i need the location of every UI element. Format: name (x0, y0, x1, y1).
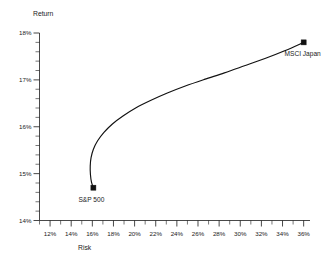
x-axis-tick-labels: 12%14%16%18%20%22%24%26%28%30%32%34%36% (44, 230, 310, 237)
data-point-marker (91, 185, 96, 190)
x-axis: 12%14%16%18%20%22%24%26%28%30%32%34%36% (40, 221, 311, 238)
x-tick-label: 12% (44, 230, 57, 237)
x-axis-title: Risk (78, 244, 92, 251)
efficient-frontier-chart: 14%15%16%17%18% 12%14%16%18%20%22%24%26%… (0, 0, 336, 264)
data-point-label: MSCI Japan (285, 50, 322, 58)
y-tick-label: 18% (19, 29, 32, 36)
x-tick-label: 28% (213, 230, 226, 237)
y-tick-label: 14% (19, 217, 32, 224)
data-point-markers (91, 40, 306, 190)
x-tick-label: 26% (192, 230, 205, 237)
x-tick-label: 24% (171, 230, 184, 237)
x-tick-label: 30% (234, 230, 247, 237)
y-tick-label: 16% (19, 123, 32, 130)
x-axis-major-ticks (50, 221, 304, 227)
x-tick-label: 22% (150, 230, 163, 237)
data-point-marker (301, 40, 306, 45)
x-tick-label: 36% (297, 230, 310, 237)
y-axis-tick-labels: 14%15%16%17%18% (19, 29, 32, 224)
data-point-label: S&P 500 (78, 196, 104, 203)
chart-canvas: 14%15%16%17%18% 12%14%16%18%20%22%24%26%… (0, 0, 336, 264)
data-point-labels: S&P 500MSCI Japan (78, 50, 321, 202)
y-axis: 14%15%16%17%18% (19, 29, 39, 224)
x-tick-label: 16% (86, 230, 99, 237)
y-tick-label: 15% (19, 170, 32, 177)
x-tick-label: 18% (107, 230, 120, 237)
x-tick-label: 32% (255, 230, 268, 237)
x-axis-minor-ticks (40, 221, 294, 225)
y-axis-title: Return (33, 10, 54, 17)
efficient-frontier-curve (90, 42, 303, 187)
x-tick-label: 20% (128, 230, 141, 237)
x-tick-label: 34% (276, 230, 289, 237)
y-tick-label: 17% (19, 76, 32, 83)
x-tick-label: 14% (65, 230, 78, 237)
